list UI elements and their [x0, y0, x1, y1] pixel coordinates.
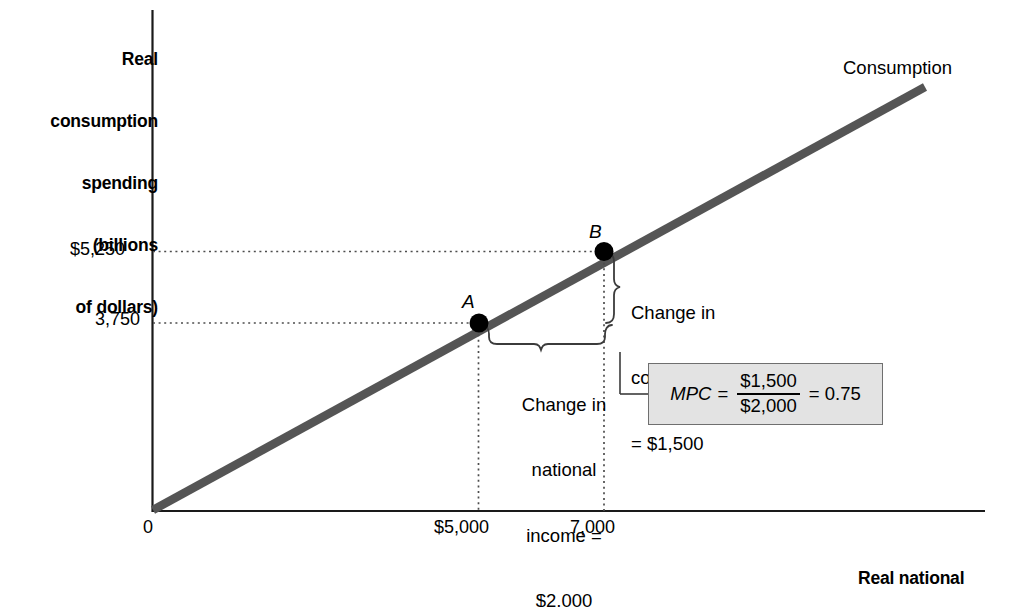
annotation-income-line-1: Change in	[494, 394, 634, 416]
y-tick-label-3750: 3,750	[95, 309, 140, 330]
mpc-formula-row: MPC = $1,500 $2,000 = 0.75	[670, 371, 860, 416]
annotation-consumption-line-1: Change in	[631, 302, 736, 324]
annotation-consumption-line-3: = $1,500	[631, 433, 736, 455]
annotation-change-in-national-income: Change in national income = $2,000	[494, 350, 634, 607]
mpc-label: MPC	[670, 383, 711, 405]
mpc-fraction: $1,500 $2,000	[737, 371, 800, 416]
consumption-function-chart: Real consumption spending (billions of d…	[0, 0, 1020, 607]
y-axis-title-line-1: Real	[50, 49, 158, 70]
series-label-consumption: Consumption	[843, 57, 952, 79]
annotation-income-line-4: $2,000	[494, 590, 634, 607]
brace-horizontal-income	[481, 325, 612, 350]
y-axis-title-line-2: consumption	[50, 111, 158, 132]
mpc-numerator: $1,500	[737, 371, 800, 393]
data-point-b	[595, 242, 614, 261]
y-axis-title: Real consumption spending (billions of d…	[50, 8, 158, 359]
annotation-income-line-3: income =	[494, 525, 634, 547]
x-tick-label-5000: $5,000	[434, 517, 489, 538]
mpc-denominator: $2,000	[737, 395, 800, 417]
y-tick-label-5250: $5,250	[70, 239, 125, 260]
mpc-result: = 0.75	[809, 383, 861, 405]
data-point-a	[470, 314, 489, 333]
mpc-equals-first: =	[717, 383, 728, 405]
x-tick-label-origin: 0	[143, 517, 153, 538]
point-label-a: A	[462, 291, 475, 313]
annotation-income-line-2: national	[494, 459, 634, 481]
y-axis-title-line-3: spending	[50, 173, 158, 194]
point-label-b: B	[589, 221, 602, 243]
mpc-formula-box: MPC = $1,500 $2,000 = 0.75	[648, 363, 883, 425]
